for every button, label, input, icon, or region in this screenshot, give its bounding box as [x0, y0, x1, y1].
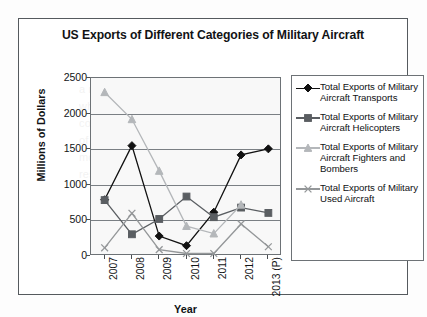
- plot-area: [90, 77, 281, 255]
- y-axis-tick-label: 2500: [47, 71, 87, 83]
- series-point: [237, 151, 245, 159]
- chart-legend: Total Exports of Military Aircraft Trans…: [291, 75, 424, 261]
- series-point: [101, 88, 109, 95]
- x-axis-tick-label: 2013 (P): [271, 257, 282, 297]
- x-axis-tick-label: 2011: [217, 257, 228, 279]
- series-point: [156, 216, 163, 223]
- x-axis-tick-mark: [186, 255, 187, 259]
- y-axis-ticks: 05001000150020002500: [43, 77, 87, 255]
- x-axis-tick-label: 2012: [244, 257, 255, 280]
- series-line: [105, 92, 242, 233]
- chart-frame: a resolution the the 000 who care and an…: [18, 18, 408, 295]
- legend-item[interactable]: Total Exports of Military Aircraft Trans…: [296, 81, 420, 104]
- legend-item-label: Total Exports of Military Used Aircraft: [320, 182, 420, 205]
- x-axis-tick-mark: [213, 255, 214, 259]
- series-point: [101, 197, 108, 204]
- y-axis-tick-label: 1500: [47, 142, 87, 154]
- scanned-page: a resolution the the 000 who care and an…: [0, 0, 427, 317]
- y-axis-tick-mark: [86, 184, 90, 185]
- y-axis-tick-label: 2000: [47, 107, 87, 119]
- x-axis-tick-mark: [131, 255, 132, 259]
- legend-item[interactable]: Total Exports of Military Aircraft Fight…: [296, 141, 420, 175]
- x-axis-tick-label: 2007: [108, 257, 119, 280]
- y-axis-tick-label: 500: [47, 213, 87, 225]
- x-axis-ticks: 2007200820092010201120122013 (P): [90, 257, 281, 307]
- series-point: [155, 232, 163, 240]
- diamond-marker-icon: [296, 82, 320, 94]
- legend-item-label: Total Exports of Military Aircraft Fight…: [320, 141, 420, 175]
- x-axis-tick-mark: [240, 255, 241, 259]
- legend-item-label: Total Exports of Military Aircraft Helic…: [320, 111, 420, 134]
- y-axis-tick-label: 0: [47, 249, 87, 261]
- x-axis-tick-mark: [104, 255, 105, 259]
- square-marker-icon: [296, 112, 320, 124]
- y-axis-title: Millions of Dollars: [35, 75, 47, 195]
- x-axis-title: Year: [90, 303, 281, 315]
- y-axis-tick-mark: [86, 148, 90, 149]
- series-point: [183, 222, 191, 229]
- x-axis-tick-label: 2009: [162, 257, 173, 280]
- x-axis-tick-label: 2010: [190, 257, 201, 280]
- y-axis-tick-mark: [86, 113, 90, 114]
- chart-series-layer: [91, 78, 282, 256]
- chart-title: US Exports of Different Categories of Mi…: [19, 28, 407, 42]
- series-point: [101, 244, 108, 251]
- x-axis-tick-mark: [267, 255, 268, 259]
- series-point: [183, 193, 190, 200]
- series-point: [238, 221, 245, 228]
- series-point: [128, 142, 136, 150]
- y-axis-tick-mark: [86, 219, 90, 220]
- series-point: [264, 145, 272, 153]
- series-point: [129, 210, 136, 217]
- x-marker-icon: [296, 183, 320, 195]
- y-axis-tick-mark: [86, 255, 90, 256]
- y-axis-tick-mark: [86, 77, 90, 78]
- x-axis-tick-label: 2008: [135, 257, 146, 280]
- legend-item[interactable]: Total Exports of Military Used Aircraft: [296, 182, 420, 205]
- legend-item-label: Total Exports of Military Aircraft Trans…: [320, 81, 420, 104]
- series-point: [129, 231, 136, 238]
- series-point: [210, 214, 217, 221]
- series-point: [155, 167, 163, 174]
- legend-item[interactable]: Total Exports of Military Aircraft Helic…: [296, 111, 420, 134]
- series-point: [265, 243, 272, 250]
- x-axis-tick-mark: [158, 255, 159, 259]
- y-axis-tick-label: 1000: [47, 178, 87, 190]
- triangle-marker-icon: [296, 142, 320, 154]
- series-point: [265, 210, 272, 217]
